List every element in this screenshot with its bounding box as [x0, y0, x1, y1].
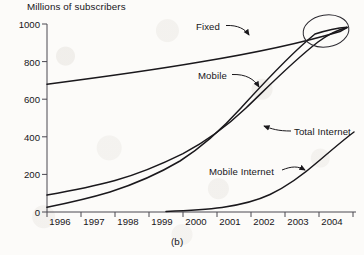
x-tick-label-2004: 2004 — [312, 216, 352, 227]
y-tick-label-600: 600 — [8, 94, 40, 105]
series-line-total-internet — [47, 27, 347, 207]
axes — [42, 24, 356, 217]
figure-panel: Millions of subscribers 1000 800 600 400… — [0, 0, 364, 255]
y-tick-marks — [42, 24, 47, 212]
y-tick-label-200: 200 — [8, 169, 40, 180]
series-label-mobile: Mobile — [198, 70, 227, 81]
y-tick-label-400: 400 — [8, 132, 40, 143]
series-label-fixed: Fixed — [196, 21, 220, 32]
figure-caption: (b) — [171, 236, 183, 247]
arrow-fixed — [226, 25, 249, 35]
y-axis-title: Millions of subscribers — [27, 1, 126, 12]
series-label-total-internet: Total Internet — [294, 126, 351, 137]
arrow-total-internet — [264, 126, 291, 131]
y-tick-label-1000: 1000 — [8, 19, 40, 30]
arrow-mobile — [232, 74, 259, 87]
series-line-mobile — [47, 28, 347, 196]
annotation-arrows — [226, 25, 305, 170]
arrow-mobile-internet — [282, 167, 305, 170]
y-tick-label-0: 0 — [8, 207, 40, 218]
y-tick-label-800: 800 — [8, 57, 40, 68]
data-series-group — [47, 27, 354, 211]
series-label-mobile-internet: Mobile Internet — [209, 166, 274, 177]
